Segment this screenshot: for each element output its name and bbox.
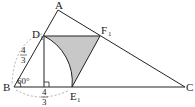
- label-a: A: [55, 0, 63, 11]
- label-d1-sub: 1: [40, 34, 44, 42]
- label-c: C: [186, 81, 193, 93]
- label-e1-sub: 1: [77, 96, 81, 104]
- geometry-diagram: A B C D 1 F 1 E 1 60° 4 3 4 3: [0, 0, 195, 107]
- label-d1: D: [32, 28, 40, 40]
- label-e1: E: [70, 90, 77, 102]
- frac-left-den: 3: [21, 55, 26, 65]
- triangle-abc: [14, 10, 185, 87]
- angle-label: 60°: [17, 76, 30, 86]
- frac-bottom-den: 3: [42, 97, 47, 107]
- label-b: B: [3, 81, 10, 93]
- frac-bottom-num: 4: [42, 87, 47, 97]
- label-f1: F: [101, 24, 107, 36]
- frac-left-num: 4: [21, 45, 26, 55]
- label-f1-sub: 1: [108, 30, 112, 38]
